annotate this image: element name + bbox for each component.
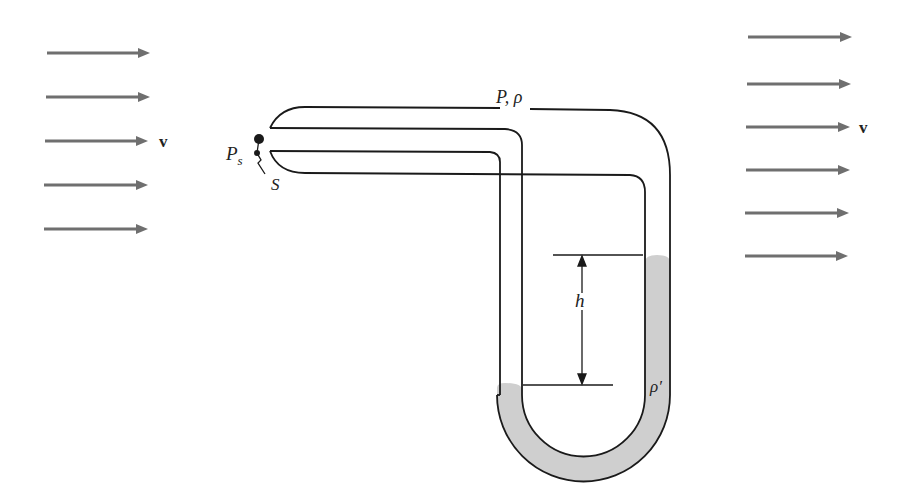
height-label: h bbox=[575, 290, 585, 311]
arrowhead-icon bbox=[840, 32, 852, 42]
static-tube-bottom-wall bbox=[270, 151, 645, 395]
upper-tube-top-wall bbox=[270, 107, 500, 128]
pitot-tube-diagram: v v Ps S P, ρ h ρ′ bbox=[0, 0, 906, 504]
stagnation-point-marker bbox=[254, 134, 265, 174]
arrowhead-icon bbox=[838, 165, 850, 175]
arrowhead-icon bbox=[136, 180, 148, 190]
arrowhead-icon bbox=[836, 251, 848, 261]
flow-arrows-right bbox=[745, 32, 852, 261]
static-tube-top-wall bbox=[270, 151, 500, 395]
arrowhead-icon bbox=[838, 122, 850, 132]
flow-arrows-left bbox=[44, 48, 150, 234]
arrowhead-icon bbox=[839, 79, 851, 89]
velocity-label-right: v bbox=[859, 118, 868, 137]
upper-tube-bottom-wall bbox=[270, 128, 522, 395]
pressure-density-label: P, ρ bbox=[495, 87, 523, 107]
arrowhead-icon bbox=[138, 48, 150, 58]
fluid-density-label: ρ′ bbox=[649, 377, 662, 396]
arrowhead-icon bbox=[136, 224, 148, 234]
arrowhead-icon bbox=[138, 92, 150, 102]
manometer-fluid bbox=[497, 255, 670, 482]
arrowhead-icon bbox=[837, 208, 849, 218]
pitot-tube bbox=[270, 107, 670, 482]
stagnation-point-label: S bbox=[271, 175, 280, 194]
arrowhead-icon bbox=[136, 136, 148, 146]
height-dimension bbox=[523, 255, 643, 385]
static-pressure-label: Ps bbox=[225, 143, 243, 168]
velocity-label-left: v bbox=[159, 132, 168, 151]
